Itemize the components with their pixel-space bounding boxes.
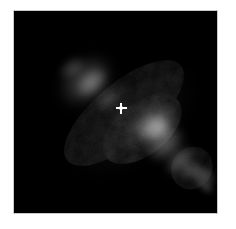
emission-region-south-east-lobe-mid	[142, 121, 189, 167]
emission-region-south-east-lobe-core	[137, 111, 177, 148]
emission-region-north-west-lobe-core	[72, 63, 112, 102]
emission-region-inner-bridge-nw	[91, 82, 127, 116]
crosshair-center-dot	[119, 106, 123, 110]
crosshair-label: +	[116, 103, 117, 104]
detector-noise-overlay	[14, 11, 217, 213]
figure-page: +	[0, 0, 236, 229]
emission-region-detached-knot-tip	[197, 179, 217, 197]
emission-region-waist-gap	[118, 102, 138, 121]
crosshair-marker: +	[116, 103, 127, 114]
crosshair-vertical-bar	[120, 103, 122, 114]
emission-region-north-west-lobe	[52, 48, 119, 114]
emission-region-south-east-extension	[177, 156, 205, 184]
emission-region-halo-diffuse	[61, 55, 207, 191]
emission-region-south-east-lobe-head	[125, 99, 182, 149]
emission-region-detached-knot	[186, 161, 217, 193]
crosshair-horizontal-bar	[116, 107, 127, 109]
image-plate-frame: +	[13, 10, 218, 214]
emission-region-south-east-lobe-tail	[160, 141, 200, 181]
emission-region-north-west-lobe-tip	[55, 53, 88, 84]
sky-canvas: +	[14, 11, 217, 213]
